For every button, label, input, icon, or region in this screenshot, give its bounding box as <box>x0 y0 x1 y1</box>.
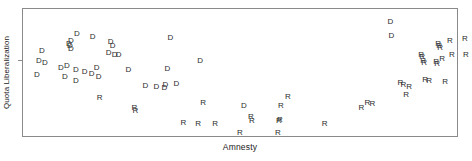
data-point-r: R <box>400 81 406 89</box>
data-point-d: D <box>90 33 96 41</box>
data-point-r: R <box>180 119 186 127</box>
data-point-r: R <box>278 102 284 110</box>
data-point-d: D <box>162 81 168 89</box>
data-point-r: R <box>275 129 281 137</box>
data-point-r: R <box>442 78 448 86</box>
data-point-r: R <box>406 83 412 91</box>
plot-frame: DDDDDDDDDDDDDDDDDDDDDDDDDDDDDDDDDDDDRRRR… <box>22 8 458 137</box>
data-point-d: D <box>58 64 64 72</box>
x-axis-label: Amnesty <box>22 141 458 153</box>
data-point-r: R <box>359 104 365 112</box>
data-point-d: D <box>34 71 40 79</box>
data-point-d: D <box>241 102 247 110</box>
data-point-d: D <box>82 68 88 76</box>
data-point-r: R <box>447 37 453 45</box>
data-point-r: R <box>322 120 328 128</box>
data-point-d: D <box>94 64 100 72</box>
data-point-r: R <box>285 93 291 101</box>
data-point-r: R <box>195 120 201 128</box>
plot-area: DDDDDDDDDDDDDDDDDDDDDDDDDDDDDDDDDDDDRRRR… <box>23 9 457 136</box>
data-point-d: D <box>167 34 173 42</box>
data-point-d: D <box>106 49 112 57</box>
data-point-d: D <box>197 57 203 65</box>
data-point-d: D <box>116 51 122 59</box>
data-point-d: D <box>173 80 179 88</box>
data-point-r: R <box>439 55 445 63</box>
data-point-r: R <box>426 77 432 85</box>
data-point-d: D <box>74 30 80 38</box>
data-point-d: D <box>153 83 159 91</box>
data-point-d: D <box>126 66 132 74</box>
data-point-r: R <box>449 51 455 59</box>
data-point-d: D <box>36 57 42 65</box>
data-point-r: R <box>97 94 103 102</box>
data-point-r: R <box>237 129 243 137</box>
data-point-d: D <box>73 66 79 74</box>
data-point-d: D <box>62 73 68 81</box>
data-point-r: R <box>462 35 468 43</box>
data-point-d: D <box>143 82 149 90</box>
data-point-r: R <box>212 120 218 128</box>
scatter-plot-figure: Quota Liberalization DDDDDDDDDDDDDDDDDDD… <box>0 0 472 161</box>
data-point-r: R <box>403 91 409 99</box>
data-point-r: R <box>249 117 255 125</box>
y-axis-label: Quota Liberalization <box>0 8 14 137</box>
data-point-d: D <box>68 45 74 53</box>
data-point-r: R <box>200 99 206 107</box>
data-point-d: D <box>96 73 102 81</box>
data-point-r: R <box>369 100 375 108</box>
data-point-r: R <box>421 59 427 67</box>
data-point-d: D <box>388 32 394 40</box>
data-point-d: D <box>64 62 70 70</box>
data-point-d: D <box>164 65 170 73</box>
data-point-d: D <box>73 77 79 85</box>
data-point-r: R <box>277 116 283 124</box>
data-point-d: D <box>39 47 45 55</box>
data-point-d: D <box>42 59 48 67</box>
data-point-d: D <box>387 18 393 26</box>
data-point-r: R <box>437 44 443 52</box>
data-point-r: R <box>133 107 139 115</box>
data-point-r: R <box>463 51 469 59</box>
